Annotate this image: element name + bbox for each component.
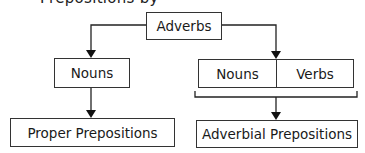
arrowhead-icon [271,51,281,59]
bracket-nouns-verbs [195,91,357,97]
adverbs-box: Adverbs [146,12,222,40]
verbs-box: Verbs [276,59,354,88]
nouns-label-right: Nouns [216,66,259,82]
adverbs-label: Adverbs [156,18,211,34]
arrowhead-icon [86,110,96,118]
nouns-label-left: Nouns [71,65,114,81]
arrowhead-icon [86,50,96,58]
proper-prepositions-box: Proper Prepositions [10,118,175,147]
nouns-box-right: Nouns [198,59,277,88]
arrowhead-icon [271,112,281,120]
adverbial-prepositions-box: Adverbial Prepositions [196,120,358,148]
nouns-box-left: Nouns [54,58,130,88]
connector-adverbs-to-nouns-left [91,25,146,51]
proper-prepositions-label: Proper Prepositions [27,125,157,141]
verbs-label: Verbs [296,66,334,82]
connector-adverbs-to-nouns-verbs [221,25,276,52]
adverbial-prepositions-label: Adverbial Prepositions [202,126,352,142]
